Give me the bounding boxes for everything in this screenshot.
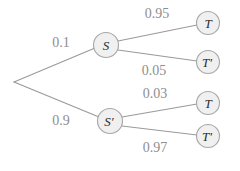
- node-s-prime: S′: [98, 109, 123, 134]
- probability-label-s-prime-to-t-prime: 0.97: [143, 140, 168, 155]
- edge-root-to-s: [14, 48, 95, 82]
- probability-label-s-to-t: 0.95: [145, 6, 170, 21]
- tree-svg-canvas: S S′ T T′ T T′ 0: [0, 0, 240, 171]
- probability-label-s-to-t-prime: 0.05: [142, 63, 167, 78]
- node-t-prime-upper-label: T′: [202, 55, 212, 70]
- node-t-prime-lower: T′: [197, 125, 220, 148]
- node-t-prime-upper: T′: [197, 51, 220, 74]
- node-t-prime-lower-label: T′: [202, 129, 212, 144]
- node-t-lower: T: [197, 92, 220, 115]
- probability-label-s-prime-to-t: 0.03: [143, 86, 168, 101]
- node-t-lower-label: T: [204, 96, 212, 111]
- node-t-upper-label: T: [204, 16, 212, 31]
- node-s: S: [94, 33, 119, 58]
- node-group: S S′ T T′ T T′: [94, 12, 220, 148]
- probability-label-root-to-s-prime: 0.9: [52, 113, 70, 128]
- edge-s-prime-to-t: [122, 104, 197, 117]
- probability-label-root-to-s: 0.1: [52, 35, 70, 50]
- edge-s-to-t-prime: [118, 50, 197, 61]
- edge-s-prime-to-t-prime: [122, 126, 197, 135]
- node-t-upper: T: [197, 12, 220, 35]
- node-s-prime-label: S′: [104, 114, 114, 129]
- probability-tree-diagram: S S′ T T′ T T′ 0: [0, 0, 240, 171]
- node-s-label: S: [103, 38, 110, 53]
- edge-s-to-t: [118, 25, 197, 41]
